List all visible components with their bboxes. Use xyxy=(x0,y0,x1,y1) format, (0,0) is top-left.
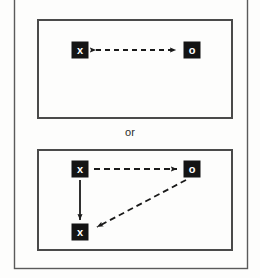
panel-bottom-border xyxy=(38,150,232,250)
node-bottom-x-top: x xyxy=(72,161,88,177)
node-bottom-x-low: x xyxy=(72,224,88,240)
panel-top: x o xyxy=(38,20,232,118)
edge-bottom-o-to-x xyxy=(97,180,186,227)
node-bottom-x-low-label: x xyxy=(77,226,84,238)
figure-container: x o or x xyxy=(0,0,260,278)
node-top-o: o xyxy=(184,42,200,58)
diagram-canvas: x o or x xyxy=(0,0,260,278)
node-bottom-x-top-label: x xyxy=(77,163,84,175)
panel-top-border xyxy=(38,20,232,118)
node-top-x-label: x xyxy=(77,44,84,56)
node-top-x: x xyxy=(72,42,88,58)
panel-bottom: x o x xyxy=(38,150,232,250)
separator-label: or xyxy=(125,126,135,138)
node-top-o-label: o xyxy=(189,44,196,56)
node-bottom-o: o xyxy=(184,161,200,177)
node-bottom-o-label: o xyxy=(189,163,196,175)
